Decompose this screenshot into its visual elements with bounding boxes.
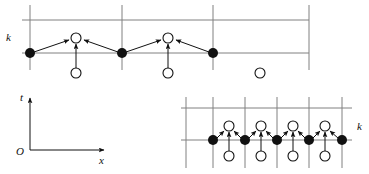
lattice-diagram: k xyxy=(0,0,369,174)
filled-node xyxy=(208,48,218,58)
filled-node xyxy=(272,135,282,145)
filled-node xyxy=(337,135,347,145)
open-node-lower xyxy=(71,68,81,78)
figure-background xyxy=(0,0,369,174)
filled-node xyxy=(304,135,314,145)
open-node-upper xyxy=(288,121,298,131)
open-node-upper xyxy=(256,121,266,131)
filled-node xyxy=(240,135,250,145)
open-node-lower xyxy=(255,68,265,78)
axis-label-origin: O xyxy=(16,145,24,157)
open-node-upper xyxy=(163,33,173,43)
open-node-lower xyxy=(320,151,330,161)
open-node-lower xyxy=(224,151,234,161)
filled-node xyxy=(208,135,218,145)
filled-node xyxy=(117,48,127,58)
open-node-lower xyxy=(163,68,173,78)
open-node-upper xyxy=(71,33,81,43)
open-node-lower xyxy=(288,151,298,161)
open-node-upper xyxy=(320,121,330,131)
figure-root: k xyxy=(0,0,369,174)
filled-node xyxy=(25,48,35,58)
open-node-upper xyxy=(224,121,234,131)
axis-label-x: x xyxy=(98,154,104,166)
open-node-lower xyxy=(256,151,266,161)
